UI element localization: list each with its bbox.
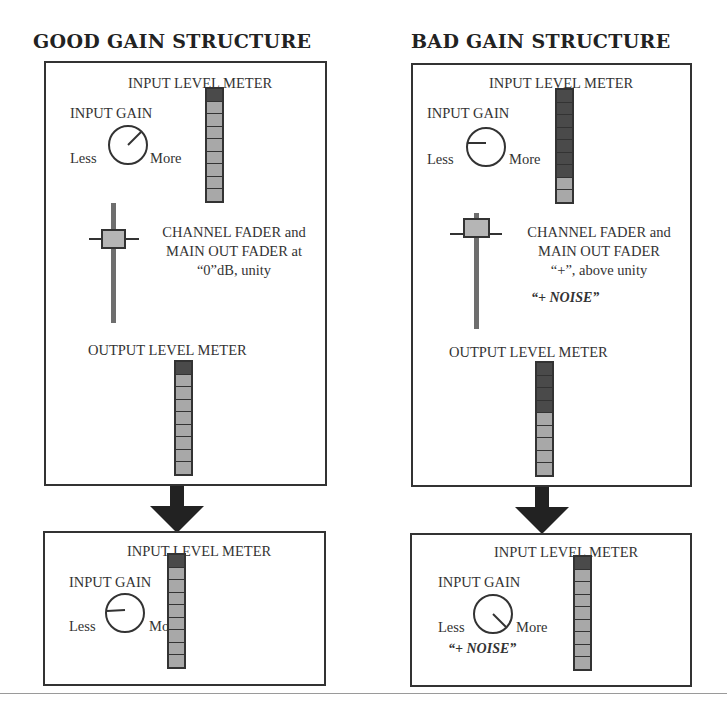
knob-less-label: Less [438,620,465,635]
output-level-meter [535,361,554,477]
input-level-meter [167,553,186,669]
knob-more-label: More [516,620,547,635]
meter-segment-off [207,189,222,201]
input-gain-label: INPUT GAIN [438,575,520,590]
noise-annotation: “+ NOISE” [531,290,599,306]
meter-segment-off [176,412,191,424]
good-gain-title: GOOD GAIN STRUCTURE [33,30,311,52]
fader-line-3: “0”dB, unity [154,261,314,280]
input-level-meter [205,87,224,203]
fader-description: CHANNEL FADER and MAIN OUT FADER “+”, ab… [509,223,689,280]
meter-segment-off [537,451,552,463]
fader-line-2: MAIN OUT FADER [509,242,689,261]
meter-segment-on [557,103,572,115]
fader-line-1: CHANNEL FADER and [509,223,689,242]
fader-line-1: CHANNEL FADER and [154,223,314,242]
knob-less-label: Less [70,151,97,166]
input-gain-label: INPUT GAIN [69,575,151,590]
input-gain-knob-icon[interactable] [103,591,147,635]
meter-segment-off [575,632,590,644]
meter-segment-on [537,401,552,413]
meter-segment-on [557,90,572,102]
meter-segment-off [176,425,191,437]
input-level-meter-label: INPUT LEVEL METER [127,544,271,559]
noise-annotation: “+ NOISE” [448,641,516,657]
input-gain-knob-icon[interactable] [471,592,515,636]
meter-segment-off [169,568,184,580]
input-gain-label: INPUT GAIN [427,106,509,121]
meter-segment-off [207,102,222,114]
good-top-panel: INPUT LEVEL METER INPUT GAIN Less More C… [44,61,327,486]
meter-segment-off [176,437,191,449]
channel-fader-icon[interactable] [86,203,142,323]
meter-segment-on [537,376,552,388]
meter-segment-off [176,387,191,399]
input-level-meter [573,555,592,671]
meter-segment-off [176,375,191,387]
meter-segment-on [169,555,184,567]
input-gain-knob-icon[interactable] [464,125,508,169]
fader-line-3: “+”, above unity [509,261,689,280]
meter-segment-off [207,152,222,164]
meter-segment-on [537,388,552,400]
meter-segment-off [537,438,552,450]
meter-segment-off [575,570,590,582]
meter-segment-off [537,463,552,475]
meter-segment-off [575,582,590,594]
meter-segment-off [575,657,590,669]
bad-bottom-panel: INPUT LEVEL METER INPUT GAIN Less More “… [410,533,692,687]
meter-segment-on [176,362,191,374]
meter-segment-off [169,655,184,667]
down-arrow-icon [150,486,204,534]
meter-segment-on [557,115,572,127]
bad-top-panel: INPUT LEVEL METER INPUT GAIN Less More C… [411,63,692,487]
meter-segment-off [169,643,184,655]
meter-segment-on [557,165,572,177]
meter-segment-on [557,128,572,140]
meter-segment-on [557,140,572,152]
meter-segment-off [176,400,191,412]
meter-segment-off [575,595,590,607]
input-gain-label: INPUT GAIN [70,106,152,121]
input-level-meter [555,88,574,204]
input-gain-knob-icon[interactable] [106,123,150,167]
knob-less-label: Less [427,152,454,167]
good-bottom-panel: INPUT LEVEL METER INPUT GAIN Less More [43,531,326,686]
meter-segment-off [169,605,184,617]
meter-segment-off [207,127,222,139]
meter-segment-off [557,178,572,190]
meter-segment-off [169,618,184,630]
meter-segment-on [557,153,572,165]
input-level-meter-label: INPUT LEVEL METER [128,76,272,91]
meter-segment-off [207,114,222,126]
output-level-meter-label: OUTPUT LEVEL METER [449,345,608,360]
meter-segment-on [207,89,222,101]
meter-segment-off [169,593,184,605]
meter-segment-off [207,139,222,151]
meter-segment-off [169,580,184,592]
knob-more-label: More [509,152,540,167]
bad-gain-title: BAD GAIN STRUCTURE [411,30,670,52]
meter-segment-on [575,557,590,569]
down-arrow-icon [515,487,569,535]
meter-segment-off [575,645,590,657]
meter-segment-off [537,426,552,438]
meter-segment-off [169,630,184,642]
meter-segment-on [537,363,552,375]
fader-description: CHANNEL FADER and MAIN OUT FADER at “0”d… [154,223,314,280]
meter-segment-off [557,190,572,202]
input-level-meter-label: INPUT LEVEL METER [494,545,638,560]
meter-segment-off [575,620,590,632]
knob-more-label: More [150,151,181,166]
output-level-meter-label: OUTPUT LEVEL METER [88,343,247,358]
bottom-divider [0,693,727,694]
meter-segment-off [537,413,552,425]
meter-segment-off [176,462,191,474]
meter-segment-off [207,164,222,176]
meter-segment-off [176,450,191,462]
knob-less-label: Less [69,619,96,634]
meter-segment-off [207,177,222,189]
output-level-meter [174,360,193,476]
fader-line-2: MAIN OUT FADER at [154,242,314,261]
channel-fader-icon[interactable] [449,213,505,333]
